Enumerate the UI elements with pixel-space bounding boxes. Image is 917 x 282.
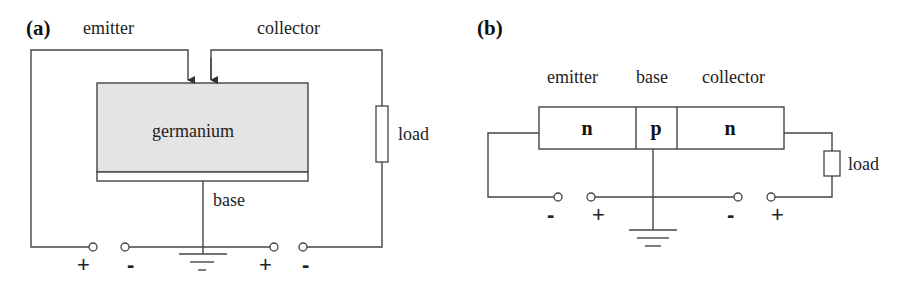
- base-label: base: [636, 67, 668, 87]
- collector-label: collector: [257, 18, 320, 38]
- sign: -: [547, 202, 554, 227]
- base-contact-strip: [97, 172, 308, 181]
- panel-b-label: (b): [477, 16, 503, 40]
- base-label: base: [213, 190, 245, 210]
- panel-a: (a) emitter collector germanium load bas…: [26, 16, 429, 277]
- terminal-emitter-plus: [587, 193, 595, 201]
- region-emitter-n: n: [581, 117, 592, 139]
- panel-b: (b) emitter base collector n p n load: [477, 16, 879, 246]
- collector-label: collector: [702, 67, 765, 87]
- collector-wire-bottom: [307, 162, 382, 247]
- panel-a-label: (a): [26, 16, 51, 40]
- terminal-emitter-plus: [89, 243, 97, 251]
- germanium-label: germanium: [152, 121, 234, 141]
- load-resistor: [376, 106, 388, 162]
- ground-icon: [179, 254, 227, 270]
- load-label: load: [848, 154, 879, 174]
- load-label: load: [398, 124, 429, 144]
- transistor-diagrams: (a) emitter collector germanium load bas…: [0, 0, 917, 282]
- collector-wire-bottom: [775, 176, 832, 197]
- sign: +: [259, 252, 272, 277]
- region-collector-n: n: [724, 117, 735, 139]
- sign: +: [77, 252, 90, 277]
- emitter-label: emitter: [547, 67, 598, 87]
- region-base-p: p: [650, 117, 661, 140]
- ground-icon: [629, 230, 677, 246]
- sign: +: [771, 202, 784, 227]
- sign: -: [127, 252, 134, 277]
- terminal-collector-plus: [767, 193, 775, 201]
- collector-wire-top: [784, 133, 832, 151]
- terminal-collector-minus: [299, 243, 307, 251]
- sign: -: [302, 252, 309, 277]
- sign: +: [592, 202, 605, 227]
- terminal-collector-minus: [734, 193, 742, 201]
- load-resistor: [824, 151, 840, 176]
- terminal-collector-plus: [270, 243, 278, 251]
- terminal-emitter-minus: [121, 243, 129, 251]
- terminal-emitter-minus: [554, 193, 562, 201]
- emitter-label: emitter: [83, 18, 134, 38]
- sign: -: [727, 202, 734, 227]
